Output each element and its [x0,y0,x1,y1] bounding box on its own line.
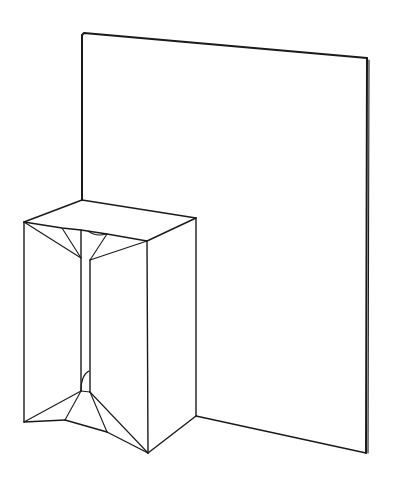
center-seam [81,230,90,392]
patent-figure [0,0,393,485]
box-top-face [24,200,196,241]
bottom-flap-folds [24,391,148,453]
back-panel [82,33,369,453]
top-flap-folds [24,222,147,260]
